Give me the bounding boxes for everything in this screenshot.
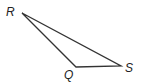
vertex-label-r: R: [6, 5, 15, 19]
vertex-label-s: S: [125, 61, 133, 75]
triangle-rqs: [22, 13, 121, 67]
triangle-diagram: R Q S: [0, 0, 142, 82]
vertex-label-q: Q: [64, 68, 73, 82]
